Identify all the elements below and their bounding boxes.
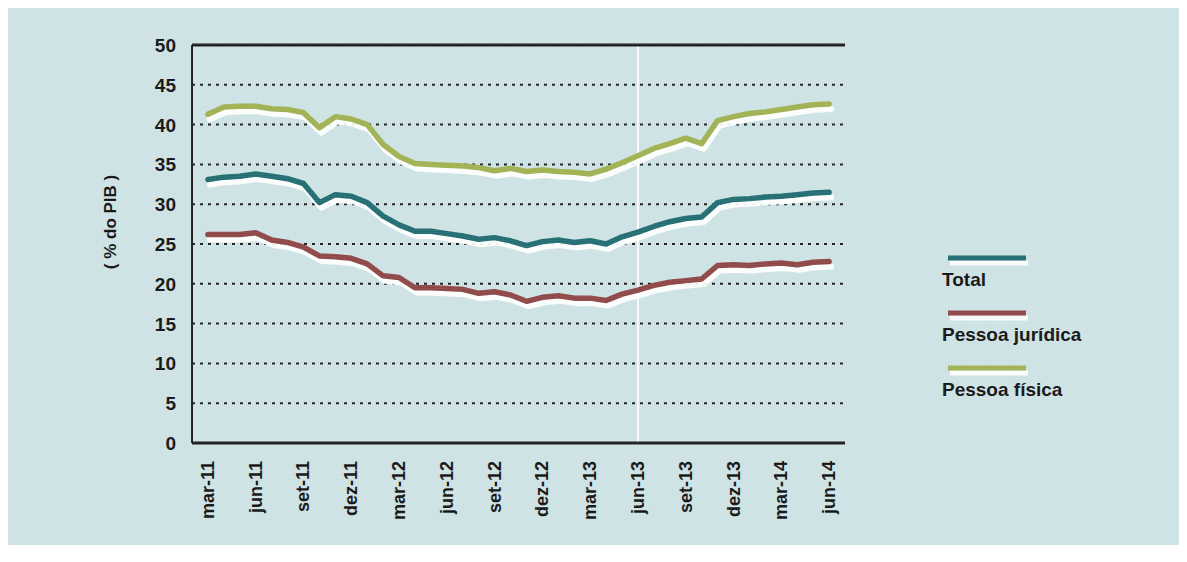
x-tick-label: mar-11: [198, 461, 218, 519]
x-tick-label: jun-12: [437, 461, 457, 515]
x-tick-label: set-13: [676, 461, 696, 513]
x-tick-label: dez-13: [724, 461, 744, 517]
y-tick-label: 25: [155, 234, 177, 255]
series-lines: [208, 104, 831, 306]
x-tick-label: mar-14: [771, 461, 791, 520]
y-tick-label: 30: [155, 194, 176, 215]
y-tick-label: 50: [155, 35, 176, 56]
x-axis-ticks: mar-11jun-11set-11dez-11mar-12jun-12set-…: [198, 461, 839, 520]
legend-label: Pessoa física: [942, 379, 1063, 400]
y-tick-label: 15: [155, 314, 177, 335]
x-tick-label: set-12: [485, 461, 505, 513]
series-line: [208, 174, 829, 246]
line-chart: 05101520253035404550 mar-11jun-11set-11d…: [8, 8, 1179, 545]
x-tick-label: set-11: [293, 461, 313, 512]
x-tick-label: mar-12: [389, 461, 409, 520]
chart-legend: TotalPessoa jurídicaPessoa física: [942, 258, 1082, 400]
x-tick-label: jun-14: [819, 461, 839, 515]
y-tick-label: 35: [155, 154, 177, 175]
x-tick-label: dez-12: [532, 461, 552, 517]
series-line: [208, 104, 829, 174]
x-tick-label: dez-11: [341, 461, 361, 516]
y-tick-label: 10: [155, 353, 176, 374]
y-tick-label: 40: [155, 115, 176, 136]
y-tick-label: 0: [165, 433, 176, 454]
x-tick-label: jun-13: [628, 461, 648, 515]
legend-label: Total: [942, 269, 986, 290]
y-tick-label: 5: [165, 393, 176, 414]
x-tick-label: jun-11: [246, 461, 266, 514]
legend-label: Pessoa jurídica: [942, 324, 1082, 345]
y-axis-label: ( % do PIB ): [101, 175, 120, 269]
y-tick-label: 45: [155, 75, 177, 96]
chart-figure: 05101520253035404550 mar-11jun-11set-11d…: [8, 8, 1179, 545]
y-axis-title: ( % do PIB ): [101, 175, 120, 269]
x-tick-label: mar-13: [580, 461, 600, 520]
y-axis-ticks: 05101520253035404550: [155, 35, 177, 454]
y-tick-label: 20: [155, 274, 176, 295]
